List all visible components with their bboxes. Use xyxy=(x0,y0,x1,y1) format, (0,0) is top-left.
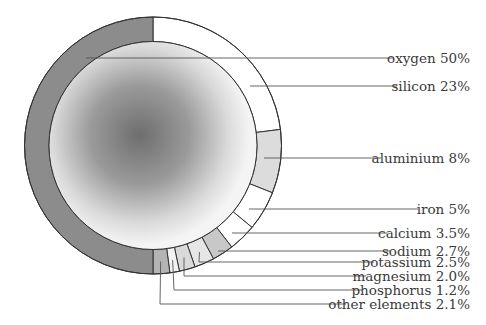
label-calcium: calcium 3.5% xyxy=(378,225,470,241)
label-aluminium: aluminium 8% xyxy=(372,150,471,166)
segment-other-elements xyxy=(153,249,170,274)
shaded-core xyxy=(49,42,257,250)
segment-labels: oxygen 50% silicon 23% aluminium 8% iron… xyxy=(328,50,470,312)
label-other-elements: other elements 2.1% xyxy=(328,296,470,312)
label-oxygen: oxygen 50% xyxy=(387,50,470,66)
element-abundance-ring-chart: oxygen 50% silicon 23% aluminium 8% iron… xyxy=(0,0,486,325)
leader-line-potassium xyxy=(199,252,374,262)
label-silicon: silicon 23% xyxy=(391,78,470,94)
label-iron: iron 5% xyxy=(417,201,470,217)
